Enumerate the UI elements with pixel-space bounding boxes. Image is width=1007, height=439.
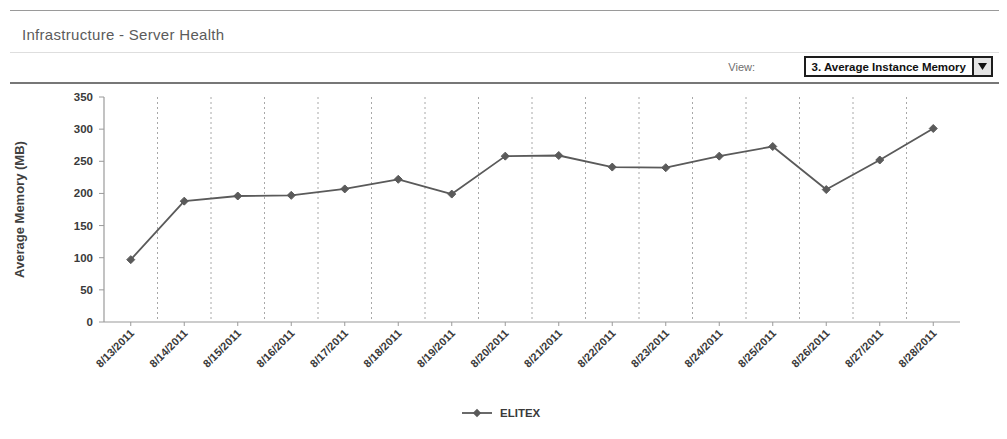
data-point-marker[interactable] — [608, 163, 616, 171]
page-title: Infrastructure - Server Health — [22, 26, 224, 43]
x-axis-tick-label: 8/25/2011 — [735, 327, 778, 370]
x-axis-tick-label: 8/17/2011 — [307, 327, 350, 370]
y-axis-tick-label: 250 — [74, 155, 93, 167]
x-axis-tick-label: 8/13/2011 — [93, 327, 136, 370]
x-axis-tick-label: 8/16/2011 — [254, 327, 297, 370]
memory-line-chart: Average Memory (MB)050100150200250300350… — [0, 86, 1007, 439]
chevron-down-icon[interactable] — [972, 58, 991, 75]
data-point-marker[interactable] — [234, 192, 242, 200]
header-bottom-divider — [10, 82, 999, 84]
title-divider — [10, 52, 999, 53]
data-point-marker[interactable] — [929, 125, 937, 133]
data-point-marker[interactable] — [341, 185, 349, 193]
x-axis-tick-label: 8/27/2011 — [842, 327, 885, 370]
x-axis-tick-label: 8/14/2011 — [147, 327, 190, 370]
y-axis-tick-label: 0 — [87, 316, 93, 328]
data-point-marker[interactable] — [287, 191, 295, 199]
data-point-marker[interactable] — [876, 156, 884, 164]
view-label: View: — [728, 61, 755, 73]
x-axis-tick-label: 8/24/2011 — [682, 327, 725, 370]
y-axis-tick-label: 150 — [74, 220, 93, 232]
view-dropdown[interactable]: 3. Average Instance Memory — [804, 56, 993, 77]
chart-canvas: Average Memory (MB)050100150200250300350… — [0, 86, 1007, 439]
x-axis-tick-label: 8/26/2011 — [789, 327, 832, 370]
y-axis-tick-label: 300 — [74, 123, 93, 135]
x-axis-tick-label: 8/23/2011 — [628, 327, 671, 370]
chart-legend: ELITEX — [462, 407, 541, 419]
y-axis-tick-label: 100 — [74, 252, 93, 264]
x-axis-tick-label: 8/15/2011 — [200, 327, 243, 370]
x-axis-tick-label: 8/28/2011 — [896, 327, 939, 370]
x-axis-tick-label: 8/22/2011 — [575, 327, 618, 370]
x-axis-tick-label: 8/20/2011 — [468, 327, 511, 370]
view-selector-row: View: 3. Average Instance Memory — [10, 55, 999, 80]
data-point-marker[interactable] — [662, 164, 670, 172]
top-divider — [10, 10, 999, 11]
view-dropdown-value: 3. Average Instance Memory — [806, 58, 972, 75]
data-point-marker[interactable] — [555, 152, 563, 160]
x-axis-tick-label: 8/18/2011 — [361, 327, 404, 370]
y-axis-tick-label: 200 — [74, 187, 93, 199]
legend-label: ELITEX — [500, 407, 541, 419]
server-health-panel: Infrastructure - Server Health View: 3. … — [0, 0, 1007, 439]
y-axis-tick-label: 50 — [80, 284, 93, 296]
legend-marker — [473, 409, 481, 417]
y-axis-title: Average Memory (MB) — [12, 141, 27, 278]
x-axis-tick-label: 8/19/2011 — [414, 327, 457, 370]
data-point-marker[interactable] — [394, 175, 402, 183]
y-axis-tick-label: 350 — [74, 91, 93, 103]
x-axis-tick-label: 8/21/2011 — [521, 327, 564, 370]
data-point-marker[interactable] — [715, 152, 723, 160]
